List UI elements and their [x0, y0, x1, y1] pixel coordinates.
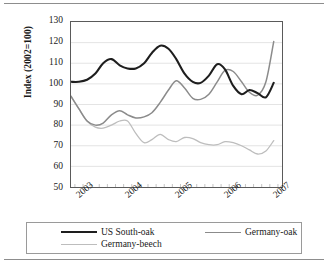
plot-svg: [71, 22, 282, 187]
y-tick-label: 130: [23, 16, 63, 26]
top-divider: [4, 3, 324, 4]
chart-legend: US South-oak Germany-oak Germany-beech: [26, 222, 302, 254]
y-tick-label: 100: [23, 79, 63, 89]
legend-swatch-icon-us-south-oak: [61, 231, 97, 233]
legend-item-germany-beech: Germany-beech: [61, 239, 162, 249]
legend-swatch-icon-germany-beech: [61, 244, 97, 245]
bottom-divider: [4, 259, 324, 260]
legend-label-germany-beech: Germany-beech: [101, 239, 162, 249]
legend-swatch-icon-germany-oak: [205, 232, 241, 233]
y-tick-label: 60: [23, 162, 63, 172]
series-line-us-south-oak: [71, 46, 274, 98]
chart-figure: Index (2002=100) 1301201101009080706050 …: [0, 0, 328, 266]
legend-item-us-south-oak: US South-oak: [61, 227, 155, 237]
y-tick-label: 90: [23, 100, 63, 110]
y-tick-label: 70: [23, 141, 63, 151]
legend-label-germany-oak: Germany-oak: [245, 227, 297, 237]
series-lines: [71, 42, 274, 154]
y-tick-label: 80: [23, 120, 63, 130]
y-tick-label: 50: [23, 183, 63, 193]
plot-area: [70, 21, 283, 188]
x-axis-ticks: [75, 184, 278, 187]
y-tick-label: 120: [23, 37, 63, 47]
y-tick-label: 110: [23, 58, 63, 68]
legend-label-us-south-oak: US South-oak: [101, 227, 155, 237]
legend-item-germany-oak: Germany-oak: [205, 227, 297, 237]
